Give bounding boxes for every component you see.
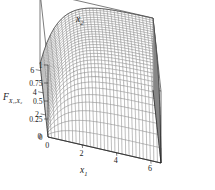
surface-mesh	[40, 8, 161, 163]
plot-canvas	[0, 0, 215, 190]
surface-plot-figure: 0246024600.250.50.751 x1 x2 FX₁,X₂	[0, 0, 215, 190]
